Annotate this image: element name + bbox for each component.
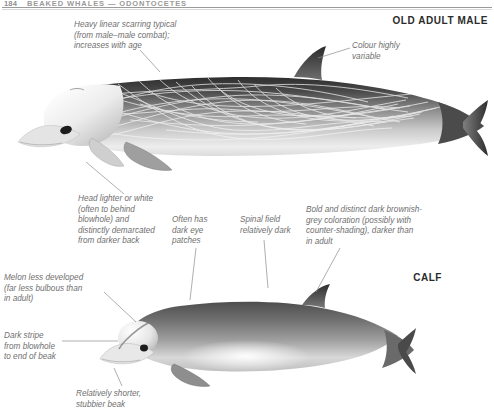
annotation-spinal-field: Spinal field relatively dark <box>240 215 310 236</box>
label-old-adult-male: OLD ADULT MALE <box>393 15 488 26</box>
tail-flukes <box>463 100 488 156</box>
header-rule <box>2 7 492 8</box>
calf-illustration <box>96 280 416 398</box>
annotation-head-lighter: Head lighter or white (often to behind b… <box>78 194 170 247</box>
label-calf: CALF <box>413 272 442 283</box>
annotation-scarring: Heavy linear scarring typical (from male… <box>74 20 214 52</box>
calf-eye <box>140 345 148 352</box>
header-rule-secondary <box>2 9 492 10</box>
annotation-calf-coloration: Bold and distinct dark brownish- grey co… <box>306 205 456 247</box>
annotation-dark-stripe: Dark stripe from blowhole to end of beak <box>4 331 66 363</box>
counter-shading <box>182 340 310 372</box>
dorsal-fin <box>294 46 326 80</box>
annotation-eye-patches: Often has dark eye patches <box>172 215 228 247</box>
calf-dorsal-fin <box>302 284 330 308</box>
annotation-stubbier-beak: Relatively shorter, stubbier beak <box>76 389 172 410</box>
page-header: 184 BEAKED WHALES — ODONTOCETES <box>0 0 494 9</box>
annotation-colour-variable: Colour highly variable <box>352 41 442 62</box>
annotation-melon: Melon less developed (far less bulbous t… <box>4 273 108 305</box>
